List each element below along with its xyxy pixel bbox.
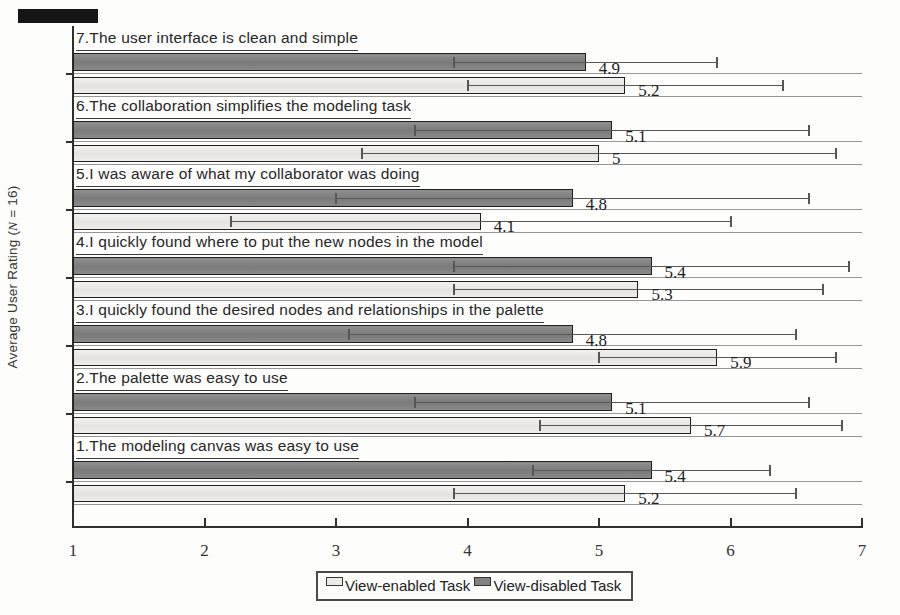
category-label-q3: 3.I quickly found the desired nodes and … [76, 301, 544, 323]
error-bar-right-cap [808, 125, 810, 136]
y-axis-tick-q3 [66, 345, 73, 347]
error-bar-view-disabled-q4 [454, 266, 849, 267]
value-label-view-enabled-q3: 5.9 [730, 354, 751, 371]
error-bar-left-cap [230, 216, 232, 227]
view-enabled-swatch-icon [326, 577, 343, 586]
row-separator-line [74, 413, 862, 414]
category-label-q6: 6.The collaboration simplifies the model… [76, 97, 411, 119]
x-axis-tick-label: 1 [53, 541, 93, 561]
x-axis-tick [72, 518, 74, 526]
error-bar-view-disabled-q1 [533, 470, 770, 471]
error-bar-view-enabled-q7 [468, 85, 784, 86]
x-axis-tick [204, 518, 206, 526]
x-axis-tick-label: 5 [579, 541, 619, 561]
error-bar-left-cap [335, 193, 337, 204]
value-label-view-disabled-q2: 5.1 [625, 400, 646, 417]
error-bar-right-cap [730, 216, 732, 227]
row-separator-line [74, 141, 862, 142]
row-separator-line [74, 504, 862, 505]
error-bar-left-cap [532, 465, 534, 476]
value-label-view-enabled-q4: 5.3 [651, 286, 672, 303]
error-bar-right-cap [822, 284, 824, 295]
category-label-q1: 1.The modeling canvas was easy to use [76, 437, 359, 459]
category-label-q5: 5.I was aware of what my collaborator wa… [76, 165, 420, 187]
error-bar-view-disabled-q5 [336, 198, 809, 199]
error-bar-right-cap [782, 80, 784, 91]
error-bar-view-disabled-q7 [454, 62, 717, 63]
legend: View-enabled Task View-disabled Task [316, 571, 633, 601]
legend-label-view-disabled: View-disabled Task [493, 577, 621, 594]
error-bar-right-cap [769, 465, 771, 476]
x-axis-tick-label: 2 [185, 541, 225, 561]
error-bar-view-enabled-q6 [362, 153, 835, 154]
y-axis-tick-q4 [66, 277, 73, 279]
x-axis-tick [335, 518, 337, 526]
error-bar-right-cap [841, 420, 843, 431]
value-label-view-enabled-q5: 4.1 [494, 218, 515, 235]
x-axis-tick [467, 518, 469, 526]
error-bar-right-cap [716, 57, 718, 68]
error-bar-view-enabled-q4 [454, 289, 822, 290]
error-bar-left-cap [598, 352, 600, 363]
x-axis-tick-label: 3 [316, 541, 356, 561]
view-disabled-swatch-icon [474, 577, 491, 586]
error-bar-left-cap [414, 125, 416, 136]
value-label-view-disabled-q1: 5.4 [665, 468, 686, 485]
error-bar-view-enabled-q1 [454, 493, 796, 494]
legend-entry-view-enabled: View-enabled Task [326, 577, 470, 594]
value-label-view-enabled-q2: 5.7 [704, 422, 725, 439]
value-label-view-enabled-q1: 5.2 [638, 490, 659, 507]
error-bar-left-cap [414, 397, 416, 408]
value-label-view-disabled-q3: 4.8 [586, 332, 607, 349]
x-axis-tick [861, 518, 863, 526]
legend-label-view-enabled: View-enabled Task [345, 577, 470, 594]
category-label-q7: 7.The user interface is clean and simple [76, 29, 358, 51]
x-axis-tick [730, 518, 732, 526]
error-bar-view-enabled-q5 [231, 221, 731, 222]
value-label-view-disabled-q7: 4.9 [599, 60, 620, 77]
x-axis-tick-label: 6 [711, 541, 751, 561]
error-bar-view-enabled-q3 [599, 357, 836, 358]
category-label-q4: 4.I quickly found where to put the new n… [76, 233, 483, 255]
y-axis-tick-q7 [66, 73, 73, 75]
figure-canvas: Average User Rating (N = 16) 12345677.Th… [0, 0, 900, 615]
error-bar-right-cap [795, 329, 797, 340]
error-bar-right-cap [795, 488, 797, 499]
error-bar-left-cap [348, 329, 350, 340]
value-label-view-disabled-q5: 4.8 [586, 196, 607, 213]
y-axis-tick-q2 [66, 413, 73, 415]
error-bar-right-cap [835, 352, 837, 363]
x-axis-tick [598, 518, 600, 526]
value-label-view-disabled-q4: 5.4 [665, 264, 686, 281]
error-bar-view-disabled-q6 [415, 130, 810, 131]
x-axis-line [72, 526, 863, 528]
error-bar-right-cap [808, 397, 810, 408]
error-bar-right-cap [835, 148, 837, 159]
row-separator-line [74, 209, 862, 210]
y-axis-tick-q5 [66, 209, 73, 211]
error-bar-left-cap [467, 80, 469, 91]
error-bar-left-cap [361, 148, 363, 159]
x-axis-tick-label: 4 [448, 541, 488, 561]
error-bar-view-enabled-q2 [540, 425, 842, 426]
error-bar-right-cap [808, 193, 810, 204]
plot-area: 12345677.The user interface is clean and… [0, 0, 900, 615]
legend-entry-view-disabled: View-disabled Task [474, 577, 621, 594]
error-bar-left-cap [453, 488, 455, 499]
error-bar-view-disabled-q2 [415, 402, 810, 403]
row-separator-line [74, 481, 862, 482]
row-separator-line [74, 345, 862, 346]
y-axis-tick-q1 [66, 481, 73, 483]
error-bar-left-cap [539, 420, 541, 431]
value-label-view-enabled-q6: 5 [612, 150, 621, 167]
error-bar-left-cap [453, 57, 455, 68]
error-bar-right-cap [848, 261, 850, 272]
y-axis-tick-q6 [66, 141, 73, 143]
row-separator-line [74, 73, 862, 74]
category-label-q2: 2.The palette was easy to use [76, 369, 288, 391]
error-bar-view-disabled-q3 [349, 334, 796, 335]
value-label-view-enabled-q7: 5.2 [638, 82, 659, 99]
error-bar-left-cap [453, 261, 455, 272]
row-separator-line [74, 277, 862, 278]
value-label-view-disabled-q6: 5.1 [625, 128, 646, 145]
